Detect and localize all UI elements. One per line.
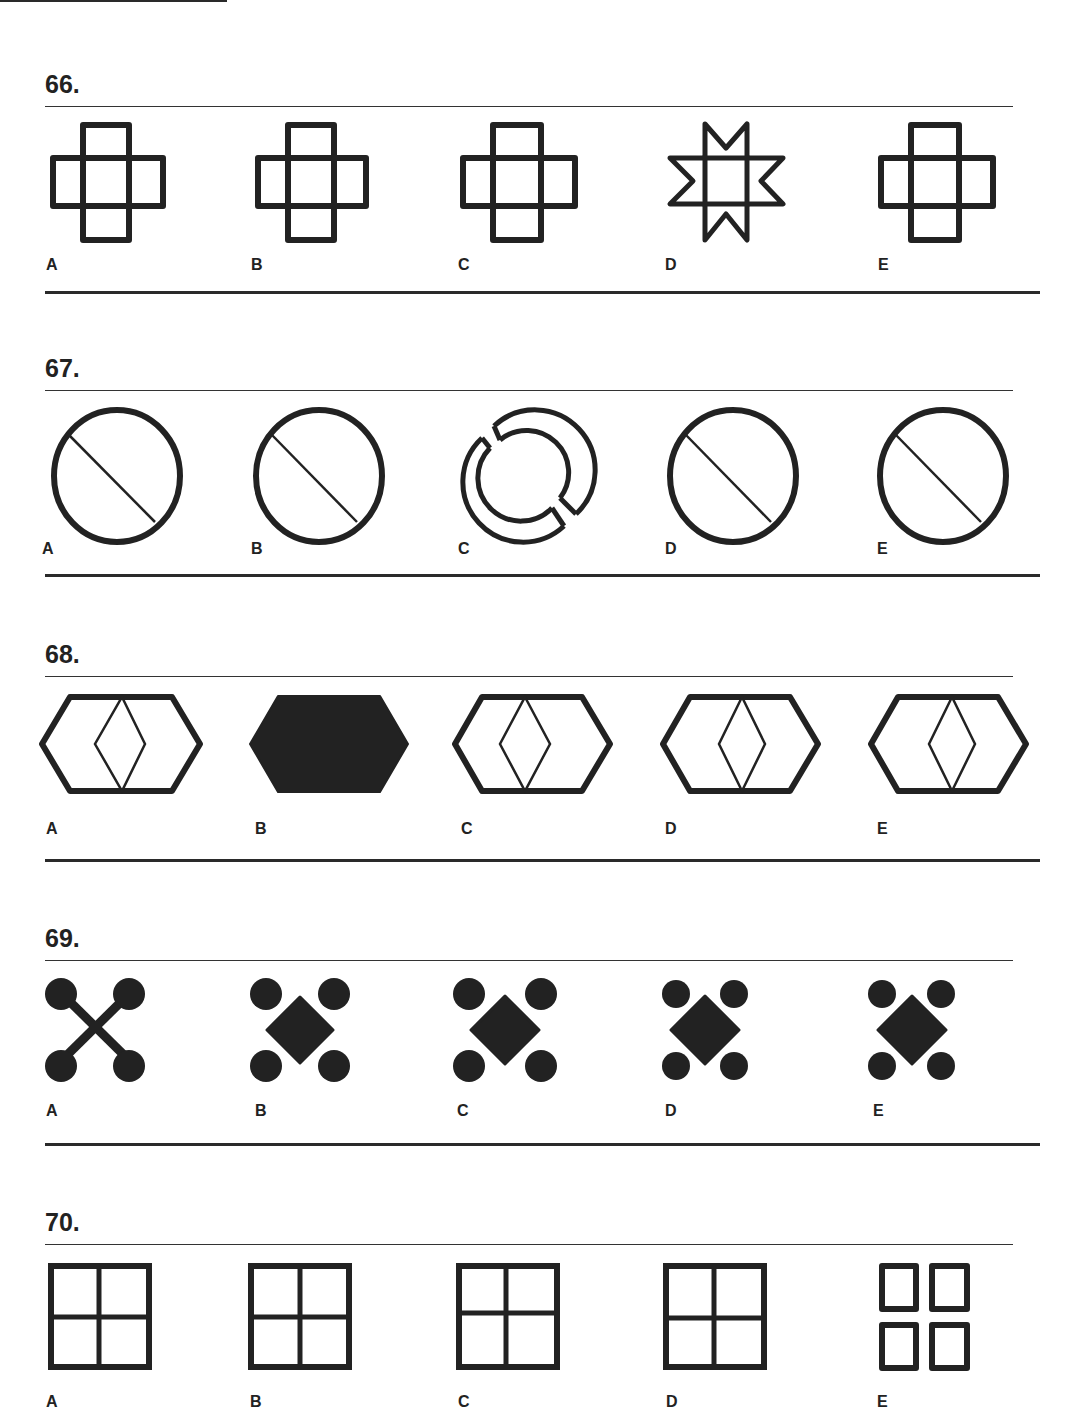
option-c[interactable]: C [456, 1263, 566, 1373]
option-a[interactable]: A [45, 978, 155, 1088]
option-a[interactable]: A [50, 122, 170, 242]
dots-diamond-icon [662, 978, 772, 1088]
option-label: B [255, 1102, 267, 1120]
option-e[interactable]: E [879, 1263, 989, 1373]
hexagon-diamond-icon [457, 694, 617, 794]
star-figure-icon [665, 122, 785, 242]
question-number: 68. [45, 640, 80, 669]
divider [45, 1244, 1013, 1245]
option-c[interactable]: C [457, 694, 617, 794]
cross-figure-icon [255, 122, 375, 242]
option-label: B [255, 820, 267, 838]
option-c[interactable]: C [453, 978, 563, 1088]
option-c[interactable]: C [460, 122, 580, 242]
dots-diamond-icon [453, 978, 563, 1088]
cross-figure-icon [50, 122, 170, 242]
option-e[interactable]: E [873, 694, 1033, 794]
option-label: A [42, 540, 54, 558]
option-label: A [46, 256, 58, 274]
option-c[interactable]: C [460, 410, 600, 550]
option-label: D [665, 256, 677, 274]
divider [45, 106, 1013, 107]
option-a[interactable]: A [45, 694, 205, 794]
option-label: B [251, 256, 263, 274]
option-d[interactable]: D [665, 410, 805, 550]
slashed-circle-icon [45, 410, 185, 550]
hexagon-diamond-icon [45, 694, 205, 794]
question-70: 70. A B C D [45, 1208, 1040, 1420]
option-e[interactable]: E [878, 122, 998, 242]
dots-cross-icon [45, 978, 155, 1088]
option-label: E [877, 820, 888, 838]
option-d[interactable]: D [665, 694, 825, 794]
option-label: D [665, 540, 677, 558]
dots-diamond-icon [250, 978, 360, 1088]
option-label: C [458, 540, 470, 558]
divider [45, 291, 1040, 294]
option-b[interactable]: B [255, 410, 395, 550]
option-label: E [878, 256, 889, 274]
slashed-circle-icon [665, 410, 805, 550]
option-label: C [461, 820, 473, 838]
window-grid-icon [456, 1263, 566, 1373]
slashed-circle-icon [255, 410, 395, 550]
option-label: B [251, 540, 263, 558]
hexagon-diamond-icon [665, 694, 825, 794]
question-67: 67. A B C [45, 354, 1040, 584]
option-label: E [873, 1102, 884, 1120]
option-b[interactable]: B [250, 978, 360, 1088]
question-68: 68. A B C D E [45, 640, 1040, 870]
filled-hexagon-icon [250, 694, 410, 794]
hexagon-diamond-icon [873, 694, 1033, 794]
option-label: D [666, 1393, 678, 1411]
option-b[interactable]: B [255, 122, 375, 242]
option-d[interactable]: D [662, 978, 772, 1088]
option-label: A [46, 1393, 58, 1411]
option-label: D [665, 1102, 677, 1120]
dots-diamond-icon [868, 978, 978, 1088]
divider [45, 676, 1013, 677]
top-rule [0, 0, 227, 2]
divider [45, 859, 1040, 862]
option-d[interactable]: D [665, 122, 785, 242]
option-a[interactable]: A [45, 410, 185, 550]
divider [45, 574, 1040, 577]
option-label: D [665, 820, 677, 838]
option-label: E [877, 540, 888, 558]
option-label: A [46, 820, 58, 838]
option-label: E [877, 1393, 888, 1411]
divider [45, 960, 1013, 961]
cross-figure-icon [460, 122, 580, 242]
option-label: C [457, 1102, 469, 1120]
four-squares-icon [879, 1263, 989, 1373]
option-e[interactable]: E [875, 410, 1015, 550]
question-number: 67. [45, 354, 80, 383]
option-a[interactable]: A [48, 1263, 158, 1373]
option-label: B [250, 1393, 262, 1411]
option-b[interactable]: B [250, 694, 410, 794]
divider [45, 1143, 1040, 1146]
option-label: A [46, 1102, 58, 1120]
option-label: C [458, 256, 470, 274]
question-66: 66. A B C D [45, 70, 1040, 300]
divider [45, 390, 1013, 391]
option-b[interactable]: B [248, 1263, 358, 1373]
question-number: 69. [45, 924, 80, 953]
window-grid-icon [663, 1263, 773, 1373]
slashed-circle-icon [875, 410, 1015, 550]
option-e[interactable]: E [868, 978, 978, 1088]
option-d[interactable]: D [663, 1263, 773, 1373]
window-grid-icon [248, 1263, 358, 1373]
option-label: C [458, 1393, 470, 1411]
broken-double-ring-icon [460, 410, 600, 550]
question-69: 69. A B C [45, 924, 1040, 1154]
window-grid-icon [48, 1263, 158, 1373]
question-number: 66. [45, 70, 80, 99]
question-number: 70. [45, 1208, 80, 1237]
cross-figure-icon [878, 122, 998, 242]
